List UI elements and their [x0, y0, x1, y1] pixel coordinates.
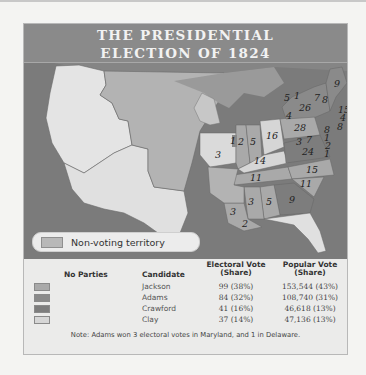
non-voting-territory-legend: Non-voting territory [32, 232, 200, 252]
svg-text:3: 3 [215, 149, 221, 160]
svg-text:4: 4 [285, 110, 292, 121]
popular-vote: 46,618 (13%) [280, 304, 340, 313]
svg-text:11: 11 [250, 172, 262, 183]
non-voting-swatch [41, 237, 63, 248]
svg-text:8: 8 [337, 121, 343, 132]
svg-text:2: 2 [237, 136, 244, 147]
us-map: 9 8 7 15 4 8 26 5 4 1 8 1 2 1 28 7 3 24 … [24, 63, 347, 259]
svg-text:2: 2 [241, 218, 248, 229]
title-bar: THE PRESIDENTIAL ELECTION OF 1824 [24, 24, 347, 63]
non-voting-label: Non-voting territory [71, 237, 165, 248]
svg-text:1: 1 [324, 148, 330, 159]
candidate-name: Jackson [142, 282, 171, 291]
candidate-name: Clay [142, 315, 158, 324]
legend-row-adams: Adams 84 (32%) 108,740 (31%) [24, 293, 347, 304]
header-candidate: Candidate [142, 271, 185, 279]
title-line-1: THE PRESIDENTIAL [24, 26, 347, 44]
election-map-card: THE PRESIDENTIAL ELECTION OF 1824 [23, 23, 348, 355]
candidate-name: Crawford [142, 304, 176, 313]
svg-text:3: 3 [230, 206, 236, 217]
svg-text:28: 28 [293, 122, 306, 133]
electoral-vote: 41 (16%) [206, 304, 266, 313]
popular-vote: 47,136 (13%) [280, 315, 340, 324]
header-popular-vote: Popular Vote (Share) [280, 261, 340, 277]
electoral-vote: 37 (14%) [206, 315, 266, 324]
svg-text:9: 9 [334, 78, 340, 89]
header-no-parties: No Parties [64, 271, 108, 279]
clay-swatch [34, 316, 50, 324]
svg-text:1: 1 [294, 90, 300, 101]
header-electoral-vote: Electoral Vote (Share) [206, 261, 266, 277]
svg-text:3: 3 [248, 196, 254, 207]
adams-swatch [34, 294, 50, 302]
electoral-vote: 99 (38%) [206, 282, 266, 291]
svg-text:7: 7 [306, 134, 313, 145]
top-divider [0, 0, 366, 2]
legend-note: Note: Adams won 3 electoral votes in Mar… [24, 331, 347, 339]
crawford-swatch [34, 305, 50, 313]
title-line-2: ELECTION OF 1824 [24, 44, 347, 62]
map-graphic: 9 8 7 15 4 8 26 5 4 1 8 1 2 1 28 7 3 24 … [24, 63, 347, 259]
svg-text:8: 8 [322, 94, 328, 105]
svg-text:15: 15 [306, 164, 318, 175]
svg-text:26: 26 [298, 102, 311, 113]
svg-text:24: 24 [301, 146, 314, 157]
svg-text:16: 16 [266, 130, 278, 141]
legend-row-crawford: Crawford 41 (16%) 46,618 (13%) [24, 304, 347, 315]
svg-text:7: 7 [314, 92, 321, 103]
svg-text:5: 5 [284, 92, 290, 103]
svg-text:9: 9 [289, 194, 295, 205]
jackson-swatch [34, 283, 50, 291]
legend-row-jackson: Jackson 99 (38%) 153,544 (43%) [24, 282, 347, 293]
popular-vote: 108,740 (31%) [280, 293, 340, 302]
svg-text:5: 5 [250, 136, 256, 147]
svg-text:11: 11 [300, 178, 312, 189]
popular-vote: 153,544 (43%) [280, 282, 340, 291]
svg-text:14: 14 [254, 155, 266, 166]
legend-row-clay: Clay 37 (14%) 47,136 (13%) [24, 315, 347, 326]
results-legend-table: No Parties Candidate Electoral Vote (Sha… [24, 259, 347, 354]
svg-text:5: 5 [266, 196, 272, 207]
candidate-name: Adams [142, 293, 168, 302]
svg-text:1: 1 [230, 135, 236, 146]
electoral-vote: 84 (32%) [206, 293, 266, 302]
